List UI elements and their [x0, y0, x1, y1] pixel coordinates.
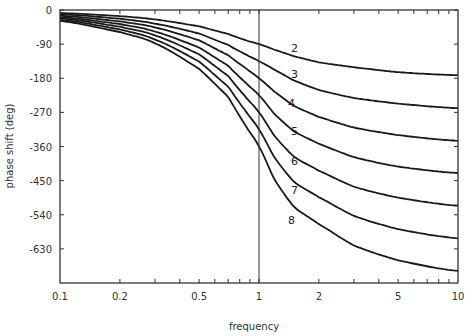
y-tick-label: -180 — [29, 73, 52, 84]
x-tick-label: 0.5 — [191, 291, 207, 302]
curve-labels: 2345678 — [288, 42, 298, 228]
x-tick-label: 0.1 — [52, 291, 68, 302]
curve-label-4: 4 — [288, 97, 295, 110]
x-axis-ticks: 0.10.20.512510 — [52, 10, 464, 302]
x-tick-label: 5 — [395, 291, 401, 302]
curve-label-2: 2 — [291, 42, 298, 55]
y-tick-label: -270 — [29, 107, 52, 118]
y-tick-label: -540 — [29, 210, 52, 221]
x-tick-label: 2 — [316, 291, 322, 302]
curve-label-8: 8 — [288, 214, 295, 227]
y-axis-title: phase shift (deg) — [4, 104, 15, 189]
y-tick-label: -630 — [29, 244, 52, 255]
x-axis-title: frequency — [229, 321, 279, 332]
curve-label-6: 6 — [291, 155, 298, 168]
y-tick-label: -450 — [29, 176, 52, 187]
y-axis-ticks: 0-90-180-270-360-450-540-630 — [29, 5, 458, 255]
x-tick-label: 10 — [452, 291, 465, 302]
curve-label-7: 7 — [291, 184, 298, 197]
curve-label-5: 5 — [291, 125, 298, 138]
y-tick-label: -90 — [36, 39, 52, 50]
y-tick-label: 0 — [46, 5, 52, 16]
y-tick-label: -360 — [29, 142, 52, 153]
curve-label-3: 3 — [291, 68, 298, 81]
x-tick-label: 1 — [256, 291, 262, 302]
x-tick-label: 0.2 — [112, 291, 128, 302]
phase-shift-chart: 0.10.20.512510 0-90-180-270-360-450-540-… — [0, 0, 468, 336]
